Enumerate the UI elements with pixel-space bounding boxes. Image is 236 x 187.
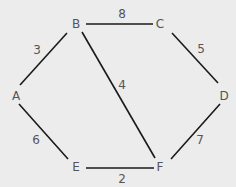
edge-weight-c-d: 5	[197, 42, 205, 56]
edge-b-f	[82, 32, 155, 158]
graph-diagram: 3854627 ABCDEF	[0, 0, 236, 187]
graph-canvas: 3854627 ABCDEF	[0, 0, 236, 187]
edge-weight-a-e: 6	[32, 133, 40, 147]
nodes-layer: ABCDEF	[12, 17, 229, 174]
edge-a-b	[20, 33, 67, 85]
node-c: C	[156, 17, 164, 31]
edge-c-d	[172, 33, 218, 83]
edges-layer	[19, 24, 220, 168]
edge-weight-b-f: 4	[118, 78, 126, 92]
edge-f-d	[171, 104, 220, 159]
node-b: B	[72, 17, 80, 31]
node-d: D	[219, 89, 228, 103]
edge-a-e	[19, 104, 68, 159]
node-e: E	[72, 160, 80, 174]
node-a: A	[12, 89, 21, 103]
edge-weight-b-c: 8	[118, 7, 126, 21]
edge-weight-f-d: 7	[196, 133, 204, 147]
edge-weight-a-b: 3	[33, 43, 41, 57]
node-f: F	[157, 160, 164, 174]
edge-weight-e-f: 2	[118, 172, 126, 186]
